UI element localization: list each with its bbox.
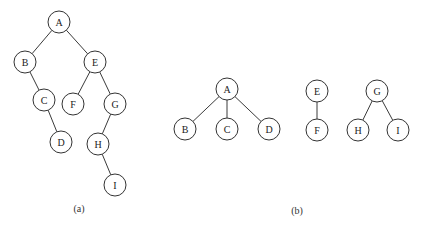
node-label: F	[314, 125, 320, 136]
a-edge-C-D	[48, 110, 57, 132]
node-label: H	[354, 125, 361, 136]
a-node-C: C	[33, 89, 55, 111]
a-node-B: B	[14, 51, 36, 73]
node-label: E	[314, 86, 320, 97]
b0-edge-A-B	[193, 97, 219, 122]
diagram-a-binary-tree: ABECFGDHI (a)	[14, 11, 126, 215]
b0-node-A: A	[216, 78, 238, 100]
node-label: C	[224, 124, 231, 135]
a-edge-A-B	[32, 30, 52, 53]
diagram-b-forest: ABCDEFGHI (b)	[174, 78, 409, 217]
b2-node-G: G	[366, 80, 388, 102]
node-label: I	[396, 125, 399, 136]
node-label: A	[223, 84, 231, 95]
node-label: D	[57, 137, 64, 148]
node-label: E	[92, 57, 98, 68]
node-label: F	[70, 99, 76, 110]
node-label: G	[111, 99, 118, 110]
tree-diagram-canvas: ABECFGDHI (a) ABCDEFGHI (b)	[0, 0, 422, 225]
diagram-a-nodes: ABECFGDHI	[14, 11, 126, 196]
node-label: B	[22, 57, 29, 68]
node-label: H	[94, 139, 101, 150]
b0-edge-A-D	[235, 97, 261, 122]
a-edge-A-E	[66, 30, 87, 54]
a-node-G: G	[104, 93, 126, 115]
b1-node-E: E	[306, 80, 328, 102]
a-node-D: D	[50, 131, 72, 153]
a-node-A: A	[48, 11, 70, 33]
a-node-I: I	[104, 174, 126, 196]
node-label: D	[265, 124, 272, 135]
node-label: G	[373, 86, 380, 97]
node-label: I	[113, 180, 116, 191]
b0-node-B: B	[174, 118, 196, 140]
b2-edge-G-H	[363, 101, 372, 120]
a-edge-H-I	[102, 154, 111, 175]
diagram-b-edges	[193, 97, 393, 122]
a-node-F: F	[62, 93, 84, 115]
a-edge-G-H	[102, 114, 110, 134]
a-node-E: E	[84, 51, 106, 73]
b0-node-D: D	[258, 118, 280, 140]
b2-node-I: I	[387, 119, 409, 141]
b2-edge-G-I	[382, 101, 393, 121]
b1-node-F: F	[306, 119, 328, 141]
a-edge-E-F	[78, 72, 90, 95]
diagram-b-caption: (b)	[291, 205, 303, 217]
diagram-a-caption: (a)	[73, 203, 84, 215]
node-label: A	[55, 17, 63, 28]
b2-node-H: H	[347, 119, 369, 141]
a-node-H: H	[87, 133, 109, 155]
a-edge-E-G	[100, 72, 111, 94]
diagram-b-nodes: ABCDEFGHI	[174, 78, 409, 141]
b0-node-C: C	[216, 118, 238, 140]
a-edge-B-C	[30, 72, 39, 90]
node-label: B	[182, 124, 189, 135]
node-label: C	[41, 95, 48, 106]
